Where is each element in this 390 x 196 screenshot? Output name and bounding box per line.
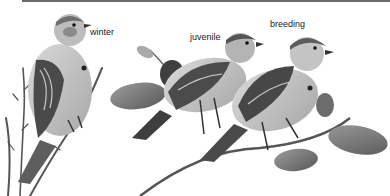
caption-juvenile: juvenile (190, 33, 221, 42)
caption-winter: winter (90, 28, 114, 37)
winter-sparrow (18, 14, 92, 184)
illustration-canvas: winter juvenile breeding (0, 0, 390, 196)
bird-illustration (0, 0, 390, 196)
caption-breeding: breeding (270, 20, 305, 29)
